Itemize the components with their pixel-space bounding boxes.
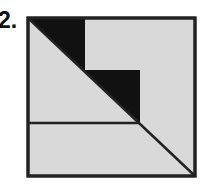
geometry-figure	[0, 0, 217, 195]
